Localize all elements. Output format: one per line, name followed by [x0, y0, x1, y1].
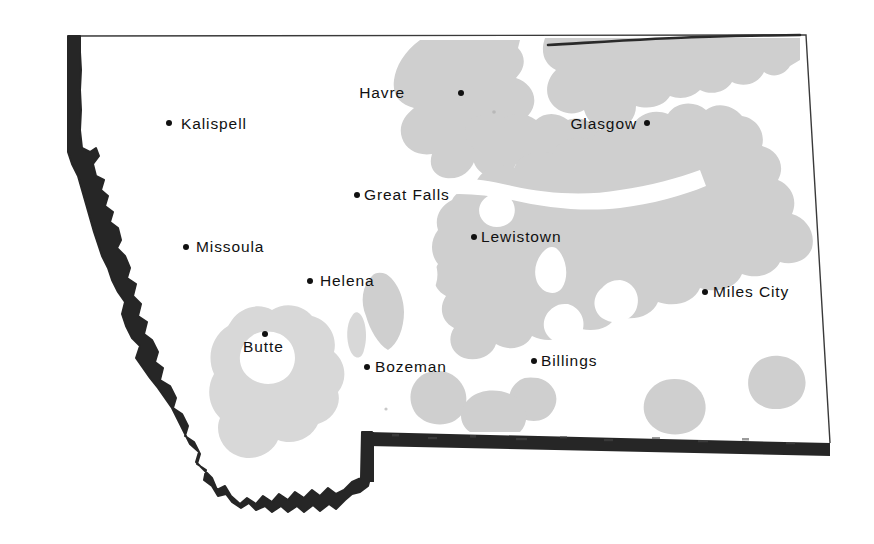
city-label-kalispell: Kalispell — [181, 116, 247, 132]
city-label-butte: Butte — [243, 339, 284, 355]
shaded-region-southeast-corner — [644, 379, 706, 435]
city-label-lewistown: Lewistown — [481, 229, 561, 245]
montana-map: Kalispell Havre Glasgow Great Falls Miss… — [0, 0, 874, 544]
city-label-great-falls: Great Falls — [364, 187, 450, 203]
city-dot-kalispell[interactable] — [166, 120, 172, 126]
shaded-region-east-edge-lower — [748, 356, 805, 409]
city-dot-helena[interactable] — [307, 278, 313, 284]
shaded-speck-2 — [384, 407, 387, 410]
city-label-miles-city: Miles City — [713, 284, 789, 300]
city-dot-billings[interactable] — [531, 358, 537, 364]
city-dot-glasgow[interactable] — [644, 120, 650, 126]
city-dot-missoula[interactable] — [183, 244, 189, 250]
city-dot-bozeman[interactable] — [364, 364, 370, 370]
city-label-glasgow: Glasgow — [570, 116, 637, 132]
shaded-speck — [492, 110, 496, 114]
city-dot-butte[interactable] — [262, 331, 268, 337]
border-southwest-notch — [362, 432, 374, 482]
city-label-helena: Helena — [320, 273, 375, 289]
montana-map-svg — [0, 0, 874, 544]
city-label-bozeman: Bozeman — [375, 359, 447, 375]
city-label-havre: Havre — [359, 85, 405, 101]
city-dot-lewistown[interactable] — [471, 234, 477, 240]
city-label-billings: Billings — [541, 353, 597, 369]
city-label-missoula: Missoula — [196, 239, 264, 255]
city-dot-miles-city[interactable] — [702, 289, 708, 295]
city-dot-havre[interactable] — [458, 90, 464, 96]
city-dot-great-falls[interactable] — [354, 192, 360, 198]
